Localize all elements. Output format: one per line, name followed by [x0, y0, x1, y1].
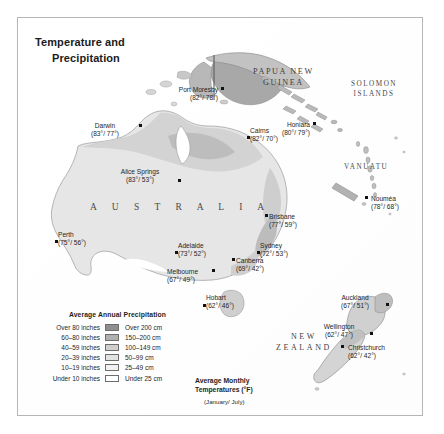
city-temps-hobart: (62°/ 46°)	[206, 302, 234, 310]
city-name-noumea: Nouméa	[371, 195, 399, 203]
city-name-darwin: Darwin	[74, 122, 136, 130]
legend-color-swatch	[105, 354, 119, 361]
city-temps-port-moresby: (82°/ 78°)	[148, 94, 218, 102]
legend-inches-value: 20–39 inches	[30, 354, 105, 361]
city-temps-auckland: (67°/ 51°)	[324, 302, 386, 310]
city-name-honiara: Honiara	[250, 121, 310, 129]
city-temps-canberra: (69°/ 42°)	[236, 265, 264, 273]
png-line1: PAPUA NEW	[253, 67, 314, 76]
city-dot-adelaide	[175, 251, 178, 254]
legend-cm-value: Under 25 cm	[119, 375, 162, 382]
legend-inches-value: 10–19 inches	[30, 364, 105, 371]
city-label-melbourne: Melbourne (67°/ 49°)	[167, 268, 198, 284]
city-name-hobart: Hobart	[206, 294, 234, 302]
city-dot-melbourne	[212, 269, 215, 272]
solomon-line1: SOLOMON	[351, 80, 397, 88]
legend-cm-value: Over 200 cm	[119, 324, 162, 331]
png-line2: GUINEA	[263, 78, 304, 87]
city-dot-perth	[55, 240, 58, 243]
city-dot-noumea	[365, 196, 368, 199]
city-dot-canberra	[232, 258, 235, 261]
legend-cm-value: 100–149 cm	[119, 344, 161, 351]
region-label-papua-new-guinea: PAPUA NEW GUINEA	[253, 66, 314, 88]
city-label-honiara: Honiara (80°/ 79°)	[250, 121, 310, 137]
city-label-auckland: Auckland (67°/ 51°)	[324, 294, 386, 310]
city-name-melbourne: Melbourne	[167, 268, 198, 276]
map-figure-frame: Temperature and Precipitation A U S T R …	[17, 17, 423, 416]
page-title-line1: Temperature and	[35, 36, 125, 48]
legend-color-swatch	[105, 324, 119, 331]
city-temps-honiara: (80°/ 79°)	[250, 129, 310, 137]
city-label-christchurch: Christchurch (62°/ 42°)	[348, 344, 385, 360]
legend-row: 60–80 inches 150–200 cm	[30, 332, 205, 342]
legend-inches-value: Over 80 inches	[30, 324, 105, 331]
city-name-sydney: Sydney	[260, 242, 288, 250]
legend-cm-value: 50–99 cm	[119, 354, 154, 361]
city-temps-sydney: (72°/ 53°)	[260, 250, 288, 258]
city-temps-melbourne: (67°/ 49°)	[167, 276, 198, 284]
temperature-legend: Average Monthly Temperatures (°F) (Janua…	[195, 376, 253, 407]
city-dot-alice-springs	[178, 179, 181, 182]
city-temps-darwin: (83°/ 77°)	[74, 130, 136, 138]
city-name-brisbane: Brisbane	[269, 213, 297, 221]
temperature-legend-line2: Temperatures (°F)	[195, 386, 253, 393]
city-label-hobart: Hobart (62°/ 46°)	[206, 294, 234, 310]
city-temps-perth: (75°/ 56°)	[58, 239, 86, 247]
city-dot-darwin	[139, 124, 142, 127]
city-label-brisbane: Brisbane (77°/ 59°)	[269, 213, 297, 229]
precipitation-legend-title: Average Annual Precipitation	[30, 311, 205, 318]
city-dot-port-moresby	[221, 87, 224, 90]
city-dot-auckland	[386, 303, 389, 306]
map-canvas: Temperature and Precipitation A U S T R …	[18, 18, 422, 415]
city-dot-honiara	[313, 122, 316, 125]
precipitation-legend: Average Annual Precipitation Over 80 inc…	[30, 311, 205, 383]
city-dot-christchurch	[341, 345, 344, 348]
solomon-line2: ISLANDS	[354, 90, 395, 98]
region-label-australia: A U S T R A L I A	[90, 202, 271, 212]
legend-inches-value: 40–59 inches	[30, 344, 105, 351]
city-label-sydney: Sydney (72°/ 53°)	[260, 242, 288, 258]
legend-inches-value: 60–80 inches	[30, 334, 105, 341]
city-temps-brisbane: (77°/ 59°)	[269, 221, 297, 229]
nz-line2: ZEALAND	[276, 343, 332, 352]
city-label-port-moresby: Port Moresby (82°/ 78°)	[148, 86, 218, 102]
legend-row: 10–19 inches 25–49 cm	[30, 363, 205, 373]
region-label-solomon-islands: SOLOMON ISLANDS	[351, 80, 397, 99]
legend-color-swatch	[105, 375, 119, 382]
city-label-canberra: Canberra (69°/ 42°)	[236, 257, 264, 273]
city-label-perth: Perth (75°/ 56°)	[58, 231, 86, 247]
legend-row: Under 10 inches Under 25 cm	[30, 373, 205, 383]
page-title-line2: Precipitation	[35, 50, 125, 66]
legend-row: Over 80 inches Over 200 cm	[30, 322, 205, 332]
page-title: Temperature and Precipitation	[35, 34, 125, 66]
city-label-darwin: Darwin (83°/ 77°)	[74, 122, 136, 138]
city-dot-wellington	[370, 332, 373, 335]
city-name-wellington: Wellington	[306, 323, 372, 331]
legend-cm-value: 150–200 cm	[119, 334, 161, 341]
temperature-legend-line1: Average Monthly	[195, 377, 250, 384]
city-name-auckland: Auckland	[324, 294, 386, 302]
city-temps-christchurch: (62°/ 42°)	[348, 352, 385, 360]
city-name-christchurch: Christchurch	[348, 344, 385, 352]
city-dot-hobart	[203, 304, 206, 307]
city-name-alice-springs: Alice Springs	[104, 168, 176, 176]
city-temps-alice-springs: (83°/ 53°)	[104, 176, 176, 184]
city-temps-adelaide: (73°/ 52°)	[178, 250, 206, 258]
city-label-alice-springs: Alice Springs (83°/ 53°)	[104, 168, 176, 184]
city-label-noumea: Nouméa (78°/ 68°)	[371, 195, 399, 211]
legend-color-swatch	[105, 334, 119, 341]
legend-color-swatch	[105, 364, 119, 371]
city-name-port-moresby: Port Moresby	[148, 86, 218, 94]
legend-row: 40–59 inches 100–149 cm	[30, 342, 205, 352]
city-dot-sydney	[257, 251, 260, 254]
city-dot-brisbane	[265, 214, 268, 217]
region-label-vanuatu: VANUATU	[344, 163, 388, 171]
legend-row: 20–39 inches 50–99 cm	[30, 353, 205, 363]
city-label-wellington: Wellington (62°/ 47°)	[306, 323, 372, 339]
city-temps-wellington: (62°/ 47°)	[306, 331, 372, 339]
city-name-adelaide: Adelaide	[178, 242, 206, 250]
temperature-legend-note: (January/ July)	[195, 394, 253, 406]
legend-color-swatch	[105, 344, 119, 351]
city-name-perth: Perth	[58, 231, 86, 239]
legend-inches-value: Under 10 inches	[30, 375, 105, 382]
